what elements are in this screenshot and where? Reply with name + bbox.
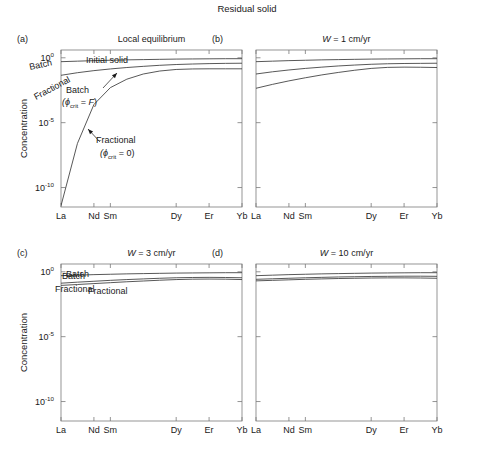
panel-tag: (c) [17,248,28,258]
x-tick-label-dy: Dy [171,425,182,435]
panel-title: W = 1 cm/yr [322,34,370,44]
panel-tag: (a) [17,34,28,44]
panel-frame [61,50,242,207]
y-axis-label: Concentration [18,99,29,158]
fractional-label: Fractional [55,284,95,294]
panel-title: W = 10 cm/yr [320,248,373,258]
x-tick-label-er: Er [205,211,214,221]
panel-tag: (d) [212,248,223,258]
x-tick-label-nd: Nd [283,425,295,435]
x-tick-label-la: La [56,211,66,221]
batch-sub-label: (ϕcrit = F) [62,97,97,109]
y-axis-label: Concentration [18,313,29,372]
fractional-label: Fractional [96,135,136,145]
fractional-sub-label: (ϕcrit = 0) [100,148,135,160]
x-tick-label-er: Er [400,425,409,435]
y-tick-label: 10-10 [35,395,55,407]
x-tick-label-nd: Nd [88,425,100,435]
panel-d: (d)W = 10 cm/yrLaNdSmDyErYbBatchFraction… [55,248,443,435]
x-tick-label-yb: Yb [236,425,247,435]
figure-title: Residual solid [217,3,276,14]
batch-label: Batch [28,57,53,72]
x-tick-label-er: Er [400,211,409,221]
x-tick-label-la: La [56,425,66,435]
x-tick-label-yb: Yb [431,425,442,435]
panel-c: (c)W = 3 cm/yr10010-510-10LaNdSmDyErYbCo… [17,248,248,435]
y-tick-label: 100 [41,265,55,277]
residual-solid-figure: Residual solid(a)Local equilibrium10010-… [0,0,495,462]
x-tick-label-sm: Sm [299,211,313,221]
panel-title: Local equilibrium [118,34,186,44]
curve-initial-solid [256,273,437,276]
initial-solid-label: Initial solid [86,55,128,65]
batch-label: Batch [66,85,89,95]
curve-batch [256,63,437,74]
x-tick-label-sm: Sm [104,211,118,221]
batch-label: Batch [66,269,89,279]
y-tick-label: 10-5 [38,116,54,128]
curve-initial-solid [256,59,437,62]
x-tick-label-sm: Sm [299,425,313,435]
x-tick-label-dy: Dy [366,425,377,435]
x-tick-label-yb: Yb [431,211,442,221]
panel-title: W = 3 cm/yr [127,248,175,258]
x-tick-label-sm: Sm [104,425,118,435]
x-tick-label-nd: Nd [88,211,100,221]
x-tick-label-er: Er [205,425,214,435]
panel-tag: (b) [212,34,223,44]
x-tick-label-dy: Dy [171,211,182,221]
x-tick-label-la: La [251,425,261,435]
curve-batch [61,63,242,75]
y-tick-label: 10-5 [38,330,54,342]
y-tick-label: 10-10 [35,181,55,193]
x-tick-label-dy: Dy [366,211,377,221]
panel-frame [256,50,437,207]
x-tick-label-nd: Nd [283,211,295,221]
panel-frame [256,264,437,421]
x-tick-label-yb: Yb [236,211,247,221]
x-tick-label-la: La [251,211,261,221]
